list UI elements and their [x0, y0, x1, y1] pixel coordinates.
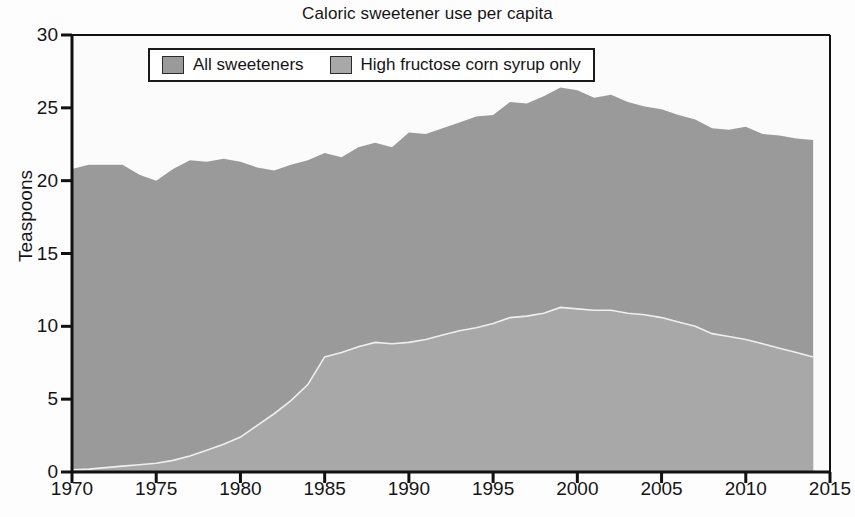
x-axis-tick-label: 2010	[706, 478, 786, 500]
y-axis-tick-label-text: 5	[18, 389, 58, 408]
x-axis-tick-label: 1980	[200, 478, 280, 500]
x-axis-tick-label: 1985	[285, 478, 365, 500]
caloric-sweetener-area-chart: Caloric sweetener use per capita Teaspoo…	[0, 0, 855, 517]
x-axis-tick-label: 1990	[369, 478, 449, 500]
x-axis-tick-label: 2005	[622, 478, 702, 500]
y-axis-tick-label-text: 25	[18, 98, 58, 117]
legend-swatch-icon-all-sweeteners	[162, 56, 184, 74]
y-axis-tick-label-text: 30	[18, 25, 58, 44]
legend-swatch-icon-hfcs-only	[330, 56, 352, 74]
y-axis-tick-label-text: 20	[18, 171, 58, 190]
legend-label-all-sweeteners: All sweeteners	[193, 55, 304, 75]
legend-label-hfcs-only: High fructose corn syrup only	[361, 55, 581, 75]
x-axis-tick-label: 1970	[32, 478, 112, 500]
chart-legend: All sweeteners High fructose corn syrup …	[148, 48, 595, 82]
y-axis-tick-label-text: 15	[18, 244, 58, 263]
x-axis-tick-label: 2000	[537, 478, 617, 500]
y-axis-tick-label-text: 10	[18, 316, 58, 335]
x-axis-tick-label: 1995	[453, 478, 533, 500]
legend-entry-hfcs-only[interactable]: High fructose corn syrup only	[330, 55, 581, 75]
legend-entry-all-sweeteners[interactable]: All sweeteners	[162, 55, 304, 75]
x-axis-tick-label: 1975	[116, 478, 196, 500]
x-axis-tick-label: 2015	[790, 478, 855, 500]
